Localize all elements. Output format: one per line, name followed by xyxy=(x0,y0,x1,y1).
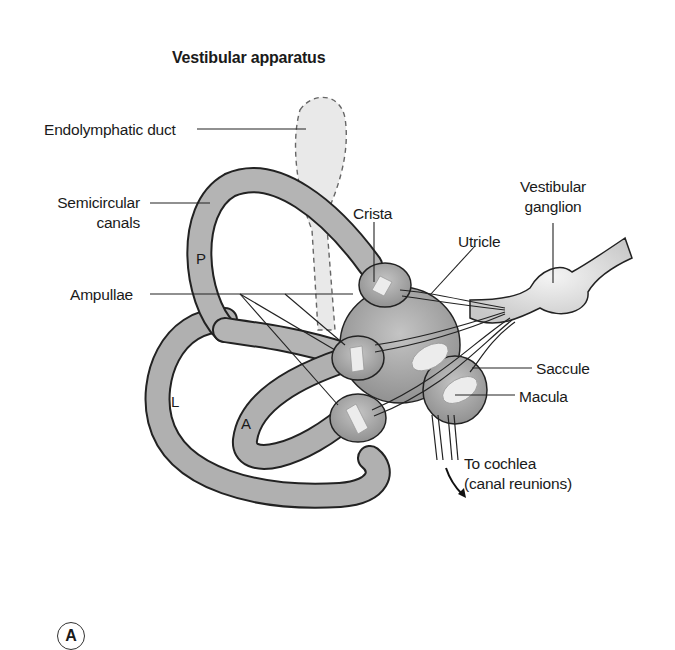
label-semicircular-canals-1: Semicircular xyxy=(48,193,140,212)
lateral-canal-letter: L xyxy=(171,393,179,410)
leader-utricle xyxy=(430,246,475,295)
crista-patch-middle xyxy=(350,346,364,372)
label-saccule: Saccule xyxy=(536,359,590,378)
label-to-cochlea-2: (canal reunions) xyxy=(464,474,572,493)
label-semicircular-canals-2: canals xyxy=(48,213,140,232)
ampulla-upper xyxy=(359,263,411,307)
to-cochlea-arrow xyxy=(446,468,466,498)
label-crista: Crista xyxy=(353,204,392,223)
panel-label-badge: A xyxy=(57,622,85,650)
ampulla-middle xyxy=(332,336,384,380)
label-macula: Macula xyxy=(519,387,568,406)
label-vestibular-ganglion-1: Vestibular xyxy=(510,177,596,196)
label-to-cochlea-1: To cochlea xyxy=(464,454,536,473)
anterior-canal-letter: A xyxy=(241,415,251,432)
label-vestibular-ganglion-2: ganglion xyxy=(510,197,596,216)
label-utricle: Utricle xyxy=(458,232,501,251)
label-ampullae: Ampullae xyxy=(70,285,133,304)
label-endolymphatic-duct: Endolymphatic duct xyxy=(44,120,176,139)
posterior-canal-letter: P xyxy=(196,250,206,267)
ampulla-lower xyxy=(330,394,386,442)
